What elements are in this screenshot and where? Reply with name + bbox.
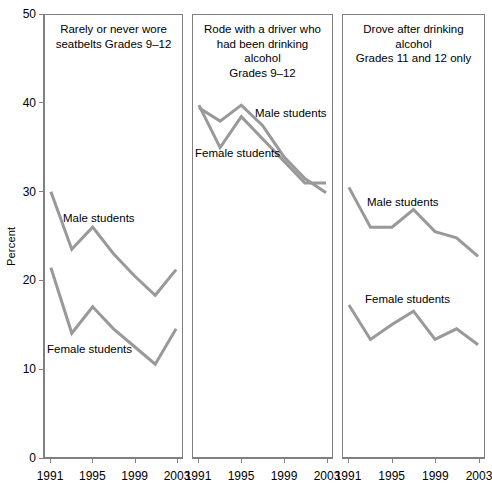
y-tick-label: 50 bbox=[14, 8, 36, 20]
x-tick bbox=[135, 458, 136, 463]
x-axis-panel-3: 1991199519992003 bbox=[342, 458, 485, 492]
series-line-male-students bbox=[51, 192, 176, 295]
x-tick-label: 1995 bbox=[228, 470, 255, 482]
x-tick bbox=[177, 458, 178, 463]
x-tick bbox=[435, 458, 436, 463]
y-tick-label: 40 bbox=[14, 97, 36, 109]
x-tick bbox=[284, 458, 285, 463]
x-tick-label: 1999 bbox=[121, 470, 148, 482]
series-label-male: Male students bbox=[255, 107, 327, 120]
y-tick-label: 30 bbox=[14, 186, 36, 198]
series-label-male: Male students bbox=[63, 212, 135, 225]
series-line-female-students bbox=[349, 305, 478, 345]
series-label-female: Female students bbox=[365, 293, 450, 306]
x-axis-line bbox=[192, 458, 333, 459]
x-tick bbox=[327, 458, 328, 463]
x-tick bbox=[392, 458, 393, 463]
y-tick-label: 10 bbox=[14, 363, 36, 375]
x-tick bbox=[479, 458, 480, 463]
x-tick bbox=[50, 458, 51, 463]
y-tick-label: 0 bbox=[14, 452, 36, 464]
panel-rode-with-drinking-driver: Rode with a driver who had been drinking… bbox=[192, 14, 333, 458]
panel-plot-area bbox=[343, 15, 484, 457]
x-tick bbox=[241, 458, 242, 463]
x-tick-label: 2003 bbox=[466, 470, 492, 482]
x-axis-line bbox=[44, 458, 183, 459]
x-tick bbox=[198, 458, 199, 463]
y-tick-label: 20 bbox=[14, 274, 36, 286]
series-label-male: Male students bbox=[367, 196, 439, 209]
x-tick-label: 1991 bbox=[185, 470, 212, 482]
x-tick-label: 1999 bbox=[422, 470, 449, 482]
series-label-female: Female students bbox=[47, 343, 132, 356]
y-axis: 01020304050 bbox=[18, 14, 44, 474]
x-tick bbox=[92, 458, 93, 463]
x-tick bbox=[348, 458, 349, 463]
panel-seatbelts: Rarely or never wore seatbelts Grades 9–… bbox=[44, 14, 183, 458]
panel-drove-after-drinking: Drove after drinking alcohol Grades 11 a… bbox=[342, 14, 485, 458]
x-tick-label: 1995 bbox=[378, 470, 405, 482]
panel-plot-area bbox=[45, 15, 182, 457]
x-axis-line bbox=[342, 458, 485, 459]
x-axis-panel-1: 1991199519992003 bbox=[44, 458, 183, 492]
series-label-female: Female students bbox=[195, 147, 280, 160]
x-axis-panel-2: 1991199519992003 bbox=[192, 458, 333, 492]
panel-plot-area bbox=[193, 15, 332, 457]
x-tick-label: 1999 bbox=[271, 470, 298, 482]
x-tick-label: 1991 bbox=[37, 470, 64, 482]
x-tick-label: 1991 bbox=[335, 470, 362, 482]
x-tick-label: 1995 bbox=[79, 470, 106, 482]
